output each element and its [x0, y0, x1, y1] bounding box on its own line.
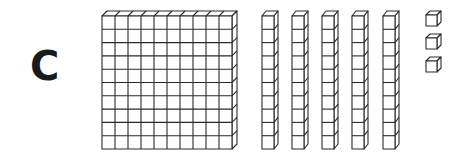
base-ten-blocks-figure: C: [0, 0, 467, 157]
unit-cube: [426, 11, 441, 26]
unit-cube: [426, 57, 441, 72]
tens-rod: [383, 11, 399, 149]
unit-cube: [426, 34, 441, 49]
tens-rod: [262, 11, 278, 149]
hundreds-flat: [102, 11, 237, 149]
ones-units: [426, 11, 441, 72]
base-ten-blocks-drawing: [0, 0, 467, 157]
tens-rod: [292, 11, 308, 149]
tens-rods: [262, 11, 399, 149]
tens-rod: [322, 11, 338, 149]
tens-rod: [352, 11, 368, 149]
